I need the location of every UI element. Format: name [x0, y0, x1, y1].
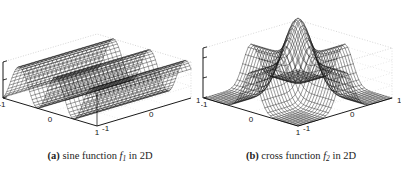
figure-row: 10-1-101-101 (a) sine function f1 in 2D …: [0, 0, 401, 173]
plot-cross-function: 1.2510.50-101-101: [201, 0, 401, 140]
caption-a-tag: (a): [48, 150, 60, 161]
caption-b-text2: in 2D: [332, 150, 356, 161]
svg-text:0: 0: [48, 115, 53, 124]
caption-b-tag: (b): [246, 150, 259, 161]
svg-text:0: 0: [249, 115, 254, 124]
svg-text:1: 1: [196, 96, 200, 105]
caption-a-function-subscript: 1: [122, 154, 126, 163]
subfigure-b: 1.2510.50-101-101 (b) cross function f2 …: [201, 0, 401, 173]
svg-text:-1: -1: [0, 100, 6, 109]
svg-text:1: 1: [397, 96, 401, 105]
caption-b-text1: cross function: [261, 150, 320, 161]
svg-text:-1: -1: [102, 124, 110, 133]
svg-text:0: 0: [350, 110, 355, 119]
cross-surface-svg: 1.2510.50-101-101: [201, 0, 401, 140]
svg-text:0: 0: [149, 110, 154, 119]
caption-a-text2: in 2D: [129, 150, 153, 161]
caption-a-text1: sine function: [62, 150, 117, 161]
caption-a: (a) sine function f1 in 2D: [0, 149, 200, 165]
caption-b: (b) cross function f2 in 2D: [201, 149, 401, 165]
svg-text:1: 1: [296, 128, 301, 137]
caption-b-function-subscript: 2: [326, 154, 330, 163]
svg-text:-1: -1: [201, 100, 208, 109]
svg-text:1: 1: [95, 128, 100, 137]
subfigure-a: 10-1-101-101 (a) sine function f1 in 2D: [0, 0, 200, 173]
plot-sine-function: 10-1-101-101: [0, 0, 200, 140]
sine-surface-svg: 10-1-101-101: [0, 0, 200, 140]
svg-text:-1: -1: [303, 124, 311, 133]
